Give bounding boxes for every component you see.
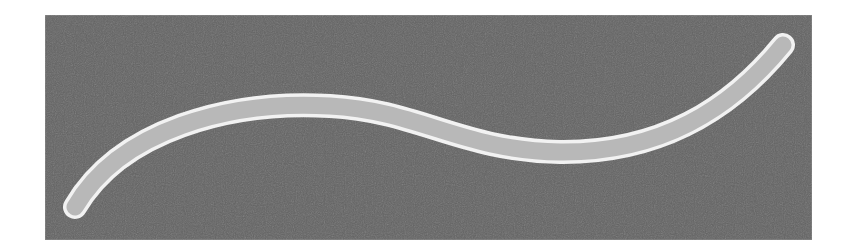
diagram-svg xyxy=(0,0,859,252)
diagram-canvas xyxy=(0,0,859,252)
